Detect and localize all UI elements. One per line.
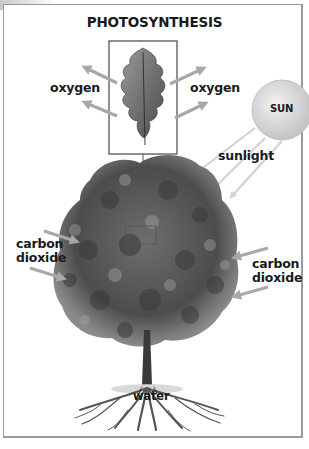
label-sun: SUN [270,103,293,114]
diagram-graphics [0,0,309,449]
tree-canopy [54,155,239,346]
label-sunlight: sunlight [218,148,274,163]
label-carbon-dioxide-left: carbon dioxide [16,237,66,265]
label-oxygen-right: oxygen [190,80,240,95]
label-oxygen-left: oxygen [50,80,100,95]
label-carbon-dioxide-right: carbon dioxide [252,257,302,285]
label-water: water [133,389,169,403]
diagram-title: PHOTOSYNTHESIS [0,14,309,30]
